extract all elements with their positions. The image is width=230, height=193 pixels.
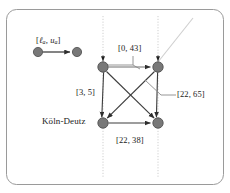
node-bottom-left xyxy=(98,118,108,128)
legend-interval-label: [ℓa, ua] xyxy=(36,36,61,45)
station-label: Köln-Deutz xyxy=(42,117,86,126)
legend-node-right xyxy=(72,47,81,56)
legend-node-left xyxy=(33,47,42,56)
node-top-left xyxy=(98,62,108,72)
node-top-right xyxy=(153,62,163,72)
interval-label-left: [3, 5] xyxy=(76,88,95,97)
interval-label-right: [22, 65] xyxy=(177,90,205,99)
node-bottom-right xyxy=(153,118,163,128)
interval-label-top: [0, 43] xyxy=(118,44,141,53)
figure-container: [ℓa, ua] [0, 43] [3, 5] [22, 65] [22, 38… xyxy=(0,0,230,193)
interval-label-bottom: [22, 38] xyxy=(116,136,144,145)
